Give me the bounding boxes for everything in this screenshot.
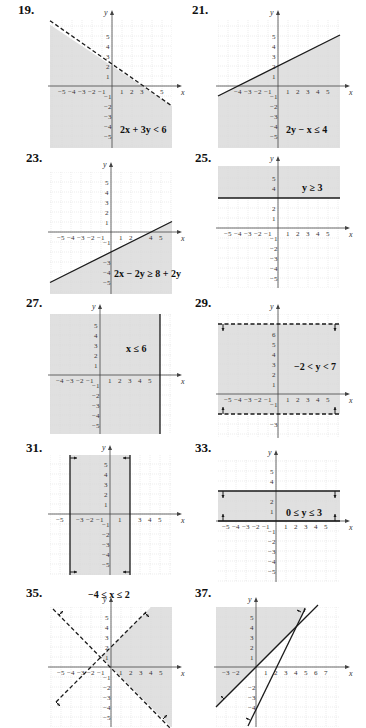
x-tick-label: −3	[244, 88, 252, 96]
x-tick-label: 4	[149, 669, 153, 677]
x-tick-label: 5	[159, 669, 163, 677]
x-axis-label: x	[180, 516, 185, 525]
y-tick-label: 3	[250, 634, 254, 642]
x-axis-label: x	[180, 88, 185, 97]
x-tick-label: −3	[244, 396, 252, 404]
x-tick-label: −2	[86, 516, 94, 524]
x-tick-label: 3	[139, 669, 143, 677]
y-tick-label: −2	[248, 684, 256, 692]
x-tick-label: −4	[232, 523, 240, 531]
x-tick-label: 3	[138, 516, 142, 524]
y-axis-arrow-icon	[274, 450, 278, 455]
y-tick-label: −5	[103, 279, 111, 287]
y-tick-label: −1	[268, 528, 276, 536]
y-tick-label: 3	[272, 361, 276, 369]
inequality-label: y ≥ 3	[302, 182, 323, 193]
y-tick-label: −5	[268, 568, 276, 576]
y-axis-label: y	[101, 443, 106, 452]
exercise-number: 33.	[195, 440, 211, 456]
x-tick-label: −2	[87, 234, 95, 242]
x-tick-label: −3	[242, 523, 250, 531]
inequality-label: 2x + 3y < 6	[120, 124, 166, 135]
x-tick-label: 2	[129, 669, 133, 677]
x-tick-label: 1	[286, 396, 290, 404]
y-tick-label: −1	[103, 674, 111, 682]
y-axis-label: y	[103, 8, 108, 17]
x-tick-label: −5	[222, 523, 230, 531]
y-axis-label: y	[269, 154, 274, 163]
y-axis-arrow-icon	[110, 10, 114, 15]
x-tick-label: −3	[76, 516, 84, 524]
x-tick-label: −2	[252, 523, 260, 531]
y-tick-label: −5	[102, 561, 110, 569]
x-tick-label: −4	[68, 88, 76, 96]
x-tick-label: 2	[130, 88, 134, 96]
x-tick-label: 4	[294, 669, 298, 677]
y-tick-label: −1	[103, 239, 111, 247]
y-tick-label: 2	[104, 491, 108, 499]
y-axis-label: y	[269, 302, 274, 311]
y-tick-label: 4	[272, 185, 276, 193]
x-tick-label: −5	[58, 88, 66, 96]
x-tick-label: 3	[304, 523, 308, 531]
x-tick-label: −2	[232, 669, 240, 677]
x-tick-label: 1	[264, 669, 268, 677]
x-tick-label: −4	[56, 377, 64, 385]
y-tick-label: −3	[248, 694, 256, 702]
y-tick-label: 4	[250, 624, 254, 632]
x-tick-label: −2	[87, 669, 95, 677]
exercise-number: 29.	[195, 295, 211, 311]
y-tick-label: −3	[270, 255, 278, 263]
y-tick-label: −1	[270, 401, 278, 409]
y-tick-label: −5	[103, 714, 111, 722]
y-tick-label: 4	[272, 351, 276, 359]
y-tick-label: −2	[270, 245, 278, 253]
y-tick-label: 1	[270, 508, 274, 516]
x-tick-label: 2	[296, 396, 300, 404]
y-axis-arrow-icon	[108, 445, 112, 450]
graph-panel-31: xy−5−3−2−1134554321−1−2−3−4−5	[48, 443, 185, 575]
y-tick-label: −4	[248, 704, 256, 712]
x-axis-label: x	[348, 396, 353, 405]
graph-panel-27: xy−4−3−2−11234554321−1−2−3−4−5	[48, 302, 185, 434]
x-axis-label: x	[180, 234, 185, 243]
x-tick-label: 7	[324, 669, 328, 677]
y-tick-label: 1	[104, 501, 108, 509]
x-tick-label: −4	[67, 234, 75, 242]
x-tick-label: −2	[254, 88, 262, 96]
y-tick-label: 2	[272, 205, 276, 213]
y-tick-label: 2	[250, 644, 254, 652]
inequality-label: −2 < y < 7	[294, 361, 336, 372]
solution-region	[50, 314, 160, 434]
y-tick-label: −4	[270, 123, 278, 131]
y-tick-label: −1	[104, 93, 112, 101]
y-tick-label: 5	[106, 33, 110, 41]
graph-panel-25: xy−5−4−3−2−1123455421−1−2−3−4−5	[216, 154, 353, 288]
x-axis-label: x	[180, 377, 185, 386]
x-tick-label: −3	[77, 234, 85, 242]
inequality-label: 0 ≤ y ≤ 3	[286, 507, 322, 518]
y-tick-label: 3	[104, 481, 108, 489]
x-tick-label: 2	[118, 377, 122, 385]
y-tick-label: 3	[272, 53, 276, 61]
y-tick-label: 4	[105, 624, 109, 632]
x-tick-label: −5	[56, 516, 64, 524]
y-tick-label: 5	[105, 614, 109, 622]
x-tick-label: 1	[108, 377, 112, 385]
x-tick-label: −5	[224, 396, 232, 404]
y-tick-label: 3	[105, 634, 109, 642]
x-tick-label: 3	[306, 396, 310, 404]
x-tick-label: 5	[160, 88, 164, 96]
y-tick-label: 3	[106, 53, 110, 61]
y-tick-label: 4	[94, 332, 98, 340]
x-tick-label: −3	[244, 230, 252, 238]
y-tick-label: −4	[104, 123, 112, 131]
y-tick-label: 5	[104, 461, 108, 469]
exercise-number: 25.	[195, 150, 211, 166]
x-tick-label: −3	[66, 377, 74, 385]
x-tick-label: −5	[57, 669, 65, 677]
x-tick-label: −2	[88, 88, 96, 96]
y-axis-label: y	[267, 448, 272, 457]
inequality-label: −4 ≤ x ≤ 2	[88, 589, 130, 600]
y-tick-label: −5	[270, 133, 278, 141]
